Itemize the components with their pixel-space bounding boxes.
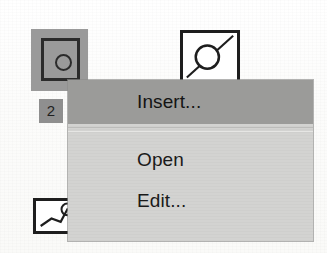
menu-item-insert[interactable]: Insert... xyxy=(68,80,313,124)
icon-label-selected[interactable]: 2 xyxy=(39,99,63,123)
menu-item-label: Edit... xyxy=(137,190,186,212)
context-menu[interactable]: Insert... Open Edit... xyxy=(68,80,313,241)
menu-item-label: Insert... xyxy=(137,91,201,113)
square-with-circle-icon xyxy=(41,38,80,81)
circle-shape-icon xyxy=(55,54,72,71)
document-circle-line-icon xyxy=(183,33,237,82)
menu-separator xyxy=(68,127,313,132)
menu-item-open[interactable]: Open xyxy=(68,139,313,180)
menu-item-edit[interactable]: Edit... xyxy=(68,180,313,221)
document-icon-circle-diagonal[interactable] xyxy=(180,30,240,85)
menu-item-label: Open xyxy=(137,149,184,171)
